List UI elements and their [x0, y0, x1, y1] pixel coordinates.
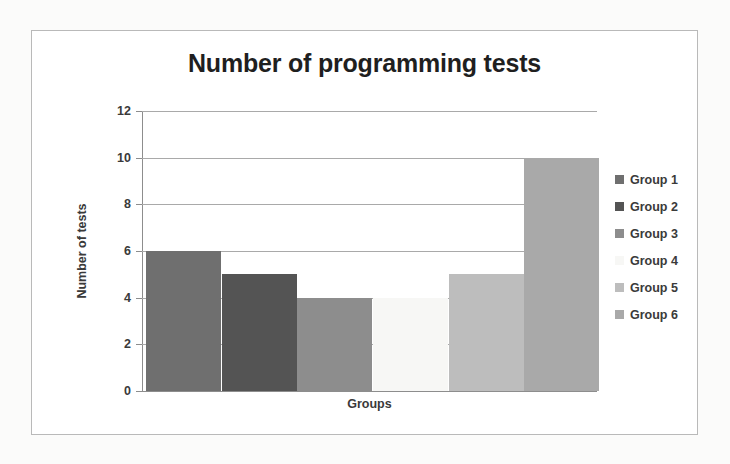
legend-item-group-1[interactable]: Group 1: [615, 166, 699, 193]
y-axis-tick-label: 4: [124, 291, 131, 305]
gridline: [142, 391, 597, 392]
legend-swatch-icon: [615, 202, 624, 211]
bar-5: [449, 274, 524, 391]
legend-swatch-icon: [615, 175, 624, 184]
legend-item-group-3[interactable]: Group 3: [615, 220, 699, 247]
legend-item-label: Group 6: [630, 308, 678, 322]
legend-swatch-icon: [615, 229, 624, 238]
legend-item-group-4[interactable]: Group 4: [615, 247, 699, 274]
y-axis-tick: [136, 158, 142, 159]
legend-item-label: Group 2: [630, 200, 678, 214]
y-axis-tick-label: 0: [124, 384, 131, 398]
legend-swatch-icon: [615, 310, 624, 319]
chart-legend: Group 1Group 2Group 3Group 4Group 5Group…: [615, 166, 699, 328]
y-axis-title-label: Number of tests: [75, 203, 89, 298]
scanned-page: Number of programming tests Number of te…: [0, 0, 730, 464]
legend-swatch-icon: [615, 256, 624, 265]
legend-item-group-2[interactable]: Group 2: [615, 193, 699, 220]
chart-frame: Number of programming tests Number of te…: [31, 30, 698, 435]
bar-2: [222, 274, 297, 391]
y-axis-title: Number of tests: [74, 111, 90, 391]
y-axis-tick: [136, 204, 142, 205]
x-axis-title: Groups: [142, 397, 597, 411]
legend-item-group-5[interactable]: Group 5: [615, 274, 699, 301]
y-axis-tick-label: 8: [124, 197, 131, 211]
legend-item-label: Group 4: [630, 254, 678, 268]
y-axis-tick: [136, 111, 142, 112]
bar-series: [143, 111, 597, 391]
bar-6: [524, 158, 599, 391]
y-axis-tick: [136, 251, 142, 252]
legend-item-label: Group 3: [630, 227, 678, 241]
legend-item-label: Group 5: [630, 281, 678, 295]
y-axis-tick-label: 2: [124, 337, 131, 351]
y-axis-tick: [136, 344, 142, 345]
y-axis-tick: [136, 298, 142, 299]
plot-area: 024681012: [142, 111, 597, 391]
y-axis-tick-label: 12: [117, 104, 131, 118]
bar-4: [373, 298, 448, 391]
bar-1: [146, 251, 221, 391]
y-axis-tick-label: 6: [124, 244, 131, 258]
chart-title: Number of programming tests: [32, 49, 697, 78]
legend-item-label: Group 1: [630, 173, 678, 187]
bar-3: [297, 298, 372, 391]
y-axis-tick: [136, 391, 142, 392]
legend-item-group-6[interactable]: Group 6: [615, 301, 699, 328]
legend-swatch-icon: [615, 283, 624, 292]
y-axis-tick-label: 10: [117, 151, 131, 165]
